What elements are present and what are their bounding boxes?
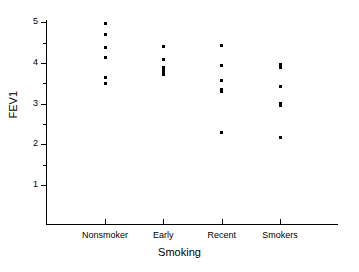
fev1-smoking-scatter-chart: 12345 NonsmokerEarlyRecentSmokers FEV1 S… [0,0,359,272]
x-axis-tick [222,219,223,224]
y-axis-tick-major [41,104,46,105]
data-point [104,46,107,49]
y-axis-tick-label: 2 [18,139,38,148]
y-axis-tick-minor [43,83,46,84]
y-axis-tick-label: 5 [18,17,38,26]
x-axis-title: Smoking [0,247,359,258]
data-point [279,85,282,88]
x-axis-tick [280,219,281,224]
y-axis-tick-minor [43,124,46,125]
x-axis-tick-label-smokers: Smokers [240,231,320,240]
y-axis-tick-minor [43,165,46,166]
x-axis-line [46,224,338,225]
data-point [220,131,223,134]
x-axis-tick [105,219,106,224]
y-axis-tick-major [41,185,46,186]
y-axis-title: FEV1 [8,101,19,119]
data-point [104,82,107,85]
data-point [220,64,223,67]
y-axis-tick-minor [43,43,46,44]
y-axis-tick-major [41,144,46,145]
y-axis-tick-major [41,22,46,23]
data-point [104,56,107,59]
data-point [162,45,165,48]
data-point [279,104,282,107]
y-axis-tick-major [41,63,46,64]
data-point [162,58,165,61]
data-point [104,76,107,79]
y-axis-line [46,20,47,225]
data-point [220,90,223,93]
y-axis-tick-label: 1 [18,180,38,189]
data-point [104,33,107,36]
x-axis-tick [163,219,164,224]
data-point [104,22,107,25]
data-point [162,73,165,76]
data-point [220,44,223,47]
data-point [279,66,282,69]
data-point [220,79,223,82]
data-point [279,136,282,139]
y-axis-tick-label: 3 [18,99,38,108]
y-axis-tick-label: 4 [18,58,38,67]
